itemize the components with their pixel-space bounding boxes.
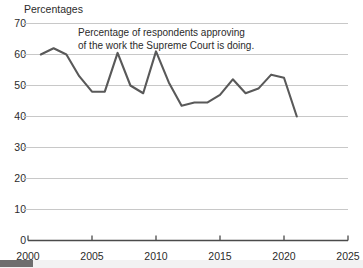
supreme-court-approval-chart: Percentages 010203040506070 200020052010… <box>0 0 363 268</box>
data-series-line <box>41 48 297 116</box>
horizontal-scrollbar-track[interactable] <box>0 260 363 268</box>
chart-annotation: Percentage of respondents approving of t… <box>78 27 254 52</box>
annotation-line-1: Percentage of respondents approving <box>78 27 254 40</box>
horizontal-scrollbar-thumb[interactable] <box>0 260 33 267</box>
annotation-line-2: of the work the Supreme Court is doing. <box>78 40 254 53</box>
x-axis <box>28 236 348 241</box>
